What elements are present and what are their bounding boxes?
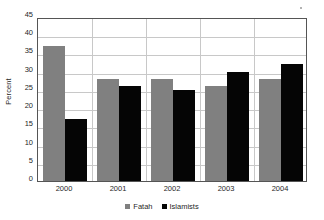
bar-islamists-2002 — [173, 90, 195, 181]
legend-label: Islamists — [170, 203, 199, 211]
x-axis-tick-label: 2004 — [272, 185, 289, 193]
chart-legend: FatahIslamists — [0, 203, 324, 211]
bar-fatah-2001 — [97, 79, 119, 181]
bar-fatah-2000 — [43, 46, 65, 181]
gray-square-marker-icon — [125, 204, 130, 209]
page-speck-artifact — [300, 7, 302, 9]
bar-fatah-2002 — [151, 79, 173, 181]
x-axis-tick-label: 2003 — [218, 185, 235, 193]
y-axis-tick-label: 5 — [29, 157, 33, 165]
x-axis-tick-label: 2001 — [110, 185, 127, 193]
black-square-marker-icon — [162, 204, 167, 209]
y-axis-title-label: Percent — [4, 78, 13, 105]
y-axis-tick-label: 20 — [25, 102, 33, 110]
y-axis-title: Percent — [1, 0, 15, 182]
y-axis-tick-label: 45 — [25, 11, 33, 19]
y-axis-tick-labels: 454035302520151050 — [16, 15, 33, 182]
bar-fatah-2004 — [259, 79, 281, 181]
x-axis-tick-label: 2000 — [56, 185, 73, 193]
legend-label: Fatah — [133, 203, 152, 211]
bar-islamists-2001 — [119, 86, 141, 181]
bar-islamists-2004 — [281, 64, 303, 181]
legend-item-islamists[interactable]: Islamists — [162, 203, 199, 211]
bars-layer — [38, 19, 306, 181]
y-axis-tick-label: 0 — [29, 175, 33, 183]
y-axis-tick-label: 25 — [25, 84, 33, 92]
x-axis-tick-labels: 20002001200220032004 — [37, 185, 307, 197]
bar-chart: Percent 454035302520151050 2000200120022… — [0, 0, 324, 220]
y-axis-tick-label: 15 — [25, 121, 33, 129]
bar-islamists-2000 — [65, 119, 87, 181]
y-axis-tick-label: 40 — [25, 29, 33, 37]
plot-area — [37, 18, 307, 182]
bar-fatah-2003 — [205, 86, 227, 181]
x-axis-tick-label: 2002 — [164, 185, 181, 193]
y-axis-tick-label: 30 — [25, 66, 33, 74]
y-axis-tick-label: 35 — [25, 48, 33, 56]
legend-item-fatah[interactable]: Fatah — [125, 203, 152, 211]
bar-islamists-2003 — [227, 72, 249, 181]
y-axis-tick-label: 10 — [25, 139, 33, 147]
